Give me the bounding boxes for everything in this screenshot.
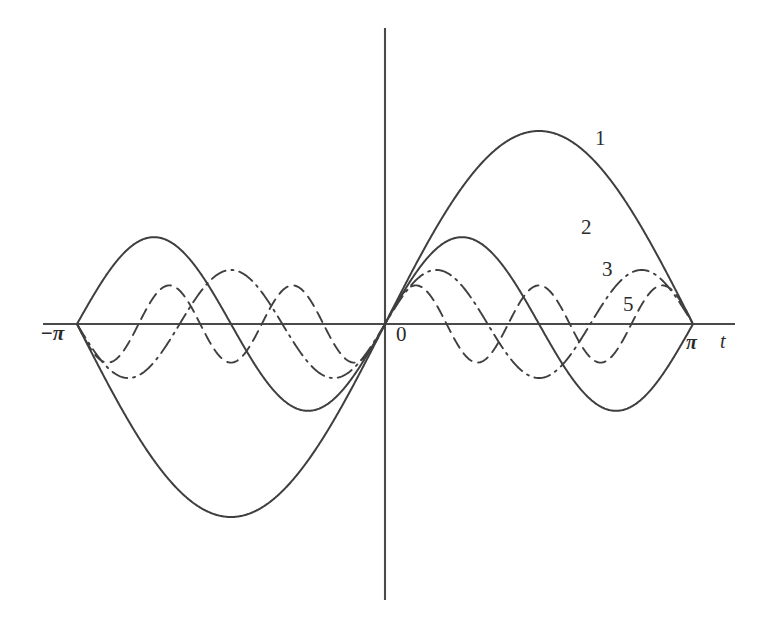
curve-label-3: 3 (602, 259, 613, 280)
x-axis-title: t (720, 331, 726, 351)
origin-label: 0 (396, 324, 407, 345)
sine-harmonics-figure: −π 0 π t 1 2 3 5 (0, 0, 772, 634)
curve-label-2: 2 (581, 217, 592, 238)
x-axis-tick-label-pi: π (686, 332, 697, 352)
plot-area (0, 0, 772, 634)
curve-label-5: 5 (623, 294, 634, 315)
x-axis-tick-label-neg-pi: −π (40, 323, 64, 344)
curve-label-1: 1 (595, 128, 606, 149)
